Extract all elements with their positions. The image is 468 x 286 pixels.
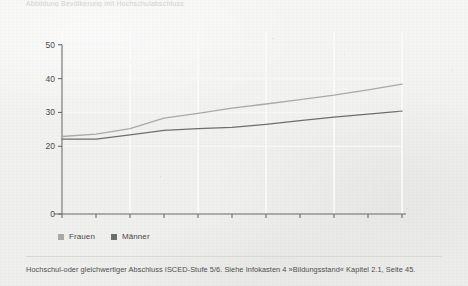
y-axis-tick-label: 40 [46, 74, 56, 84]
y-axis-tick-label: 50 [46, 40, 56, 50]
series-line-frauen [62, 84, 402, 136]
scan-speck [406, 208, 408, 209]
scan-speck [160, 176, 161, 177]
scan-speck [130, 62, 131, 63]
legend-swatch-maenner [111, 234, 117, 240]
legend-item-frauen[interactable]: Frauen [58, 232, 95, 241]
line-chart: 020304050200120032005200720092011 [0, 8, 468, 222]
legend-label-maenner: Männer [122, 232, 150, 241]
scan-speck [344, 54, 345, 55]
cropped-header-text: Abbildung Bevölkerung mit Hochschulabsch… [26, 0, 266, 7]
chart-legend: Frauen Männer [58, 232, 150, 241]
scan-speck [29, 198, 30, 199]
y-axis-tick-label: 0 [50, 209, 55, 219]
x-axis-tick-label: 2009 [325, 220, 344, 222]
legend-swatch-frauen [58, 234, 64, 240]
y-axis-tick-label: 30 [46, 107, 56, 117]
y-axis-tick-label: 20 [46, 141, 56, 151]
scan-speck [272, 38, 274, 39]
legend-label-frauen: Frauen [69, 232, 95, 241]
chart-plot-area: 020304050200120032005200720092011 [0, 8, 468, 222]
x-axis-tick-label: 2007 [257, 220, 276, 222]
x-axis-tick-label: 2011 [393, 220, 412, 222]
caption-divider [26, 256, 442, 257]
legend-item-maenner[interactable]: Männer [111, 232, 150, 241]
figure-caption: Hochschul-oder gleichwertiger Abschluss … [26, 265, 446, 275]
x-axis-tick-label: 2001 [53, 220, 72, 222]
figure-container: 020304050200120032005200720092011 Frauen… [0, 8, 468, 278]
scan-speck [399, 110, 401, 112]
x-axis-tick-label: 2005 [189, 220, 208, 222]
scan-speck [452, 70, 453, 71]
x-axis-tick-label: 2003 [121, 220, 140, 222]
series-line-männer [62, 111, 402, 139]
